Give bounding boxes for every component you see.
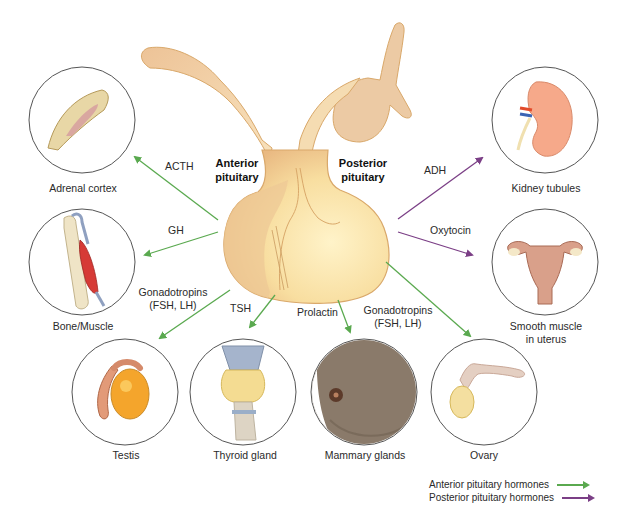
target-label-ovary: Ovary — [470, 449, 498, 462]
hormone-label-gonadotropins-right: Gonadotropins (FSH, LH) — [364, 304, 433, 330]
posterior-label-line2: pituitary — [339, 170, 387, 184]
legend-anterior-arrow-icon — [557, 484, 587, 486]
posterior-label-line1: Posterior — [339, 156, 387, 170]
gonadotropins-right-line1: Gonadotropins — [364, 304, 433, 317]
legend-anterior: Anterior pituitary hormones — [429, 479, 587, 490]
target-label-kidney: Kidney tubules — [512, 182, 581, 195]
target-label-testis: Testis — [113, 449, 140, 462]
legend-posterior-arrow-icon — [562, 497, 592, 499]
hypothalamus-shape — [141, 23, 411, 168]
target-label-bone-muscle: Bone/Muscle — [53, 320, 114, 333]
hormone-label-gonadotropins-left: Gonadotropins (FSH, LH) — [139, 286, 208, 312]
gonadotropins-left-line2: (FSH, LH) — [139, 299, 208, 312]
pituitary-diagram — [0, 0, 629, 507]
hormone-label-gh: GH — [168, 224, 184, 237]
anterior-pituitary-label: Anterior pituitary — [215, 156, 258, 184]
legend-posterior: Posterior pituitary hormones — [429, 492, 592, 503]
uterus-label-line1: Smooth muscle — [510, 320, 582, 333]
arrow-prolactin — [338, 300, 350, 332]
target-label-mammary: Mammary glands — [325, 449, 406, 462]
legend-anterior-label: Anterior pituitary hormones — [429, 479, 549, 490]
anterior-label-line2: pituitary — [215, 170, 258, 184]
gonadotropins-right-line2: (FSH, LH) — [364, 317, 433, 330]
ovary-circle — [431, 339, 537, 445]
hormone-label-prolactin: Prolactin — [297, 306, 338, 319]
gonadotropins-left-line1: Gonadotropins — [139, 286, 208, 299]
target-label-uterus: Smooth muscle in uterus — [510, 320, 582, 346]
hormone-label-oxytocin: Oxytocin — [430, 224, 471, 237]
hormone-label-tsh: TSH — [230, 302, 251, 315]
target-label-adrenal: Adrenal cortex — [49, 182, 117, 195]
target-label-thyroid: Thyroid gland — [213, 449, 277, 462]
posterior-pituitary-label: Posterior pituitary — [339, 156, 387, 184]
uterus-label-line2: in uterus — [510, 333, 582, 346]
hormone-label-acth: ACTH — [165, 160, 194, 173]
anterior-label-line1: Anterior — [215, 156, 258, 170]
legend-posterior-label: Posterior pituitary hormones — [429, 492, 554, 503]
hormone-label-adh: ADH — [424, 164, 446, 177]
arrow-tsh — [250, 295, 275, 327]
